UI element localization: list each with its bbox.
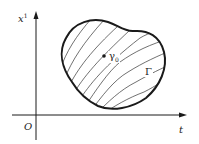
x1-axis-label: x1 — [18, 13, 27, 24]
x1-axis — [34, 11, 39, 140]
boundary-gamma — [62, 20, 165, 109]
t-axis — [12, 113, 187, 118]
x1-axis-label-sup: 1 — [24, 12, 28, 19]
x1-axis-arrow-icon — [34, 11, 39, 19]
region-hatching — [56, 18, 172, 118]
point-gamma0-label-sub: 0 — [115, 56, 119, 63]
point-gamma0-marker — [102, 54, 106, 58]
origin-label: O — [24, 122, 32, 132]
t-axis-label: t — [179, 125, 183, 135]
boundary-gamma-label: Γ — [144, 67, 153, 77]
point-gamma0-label: γ0 — [108, 51, 120, 63]
t-axis-arrow-icon — [179, 113, 187, 118]
